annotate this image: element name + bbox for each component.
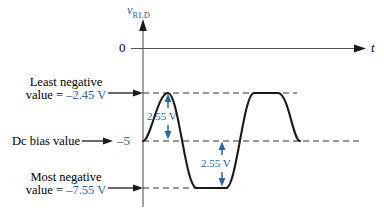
- y-axis-label: vRLD: [127, 4, 150, 22]
- callout-dc-bias-label: Dc bias value: [12, 135, 80, 148]
- bias-tick-label: –5: [117, 134, 130, 147]
- callout-most-negative-prefix: value =: [26, 183, 66, 197]
- zero-tick-label: 0: [119, 41, 126, 54]
- leader-arrow-most-negative: [108, 184, 143, 191]
- callout-most-negative-value: –7.55 V: [66, 183, 106, 197]
- waveform-figure: vRLD 0 t Least negative value = –2.45 V …: [0, 0, 384, 219]
- callout-most-negative: Most negative value = –7.55 V: [23, 171, 109, 197]
- callout-least-negative-value: –2.45 V: [66, 88, 106, 102]
- leader-arrow-least-negative: [108, 89, 143, 96]
- y-axis: [139, 19, 147, 207]
- x-axis-label: t: [371, 41, 375, 54]
- amplitude-label-upper: 2.55 V: [147, 110, 177, 122]
- callout-most-negative-line2: value = –7.55 V: [23, 184, 109, 197]
- y-axis-label-subscript: RLD: [133, 10, 151, 20]
- callout-least-negative: Least negative value = –2.45 V: [23, 76, 109, 102]
- x-axis: [131, 45, 366, 53]
- callout-least-negative-prefix: value =: [26, 88, 66, 102]
- amplitude-label-lower: 2.55 V: [201, 157, 231, 169]
- callout-least-negative-line2: value = –2.45 V: [23, 89, 109, 102]
- leader-arrow-dc-bias: [82, 137, 113, 144]
